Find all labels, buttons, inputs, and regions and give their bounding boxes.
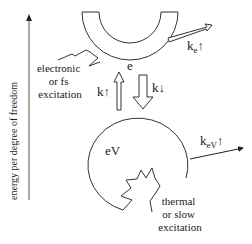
transfer-down-arrow <box>133 75 153 109</box>
electron-bath-label: e <box>127 58 133 73</box>
transfer-down-label: k↓ <box>152 80 165 95</box>
transfer-up-arrow <box>114 72 124 110</box>
thermal-excitation-burst-icon <box>121 168 160 212</box>
electron-bath-shape <box>82 12 178 60</box>
electron-loss-label: ke↑ <box>187 38 204 55</box>
transfer-up-label: k↑ <box>97 84 110 99</box>
energy-axis <box>26 14 32 200</box>
thermal-excitation-label: thermal or slow excitation <box>158 195 202 233</box>
vibration-bath-label: eV <box>105 143 121 158</box>
energy-flow-diagram: energy per degree of freedom e ke↑ elect… <box>0 0 252 244</box>
vibration-loss-label: keV↑ <box>200 133 224 150</box>
axis-label: energy per degree of freedom <box>8 82 19 200</box>
electronic-excitation-label: electronic or fs excitation <box>37 62 83 100</box>
